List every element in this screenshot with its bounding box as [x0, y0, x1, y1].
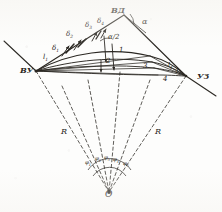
phi-2-sub: 2 — [99, 159, 101, 163]
delta-3-sub: 3 — [89, 25, 92, 30]
label-radius-right: R — [155, 128, 161, 136]
phi-4-sub: 4 — [117, 160, 119, 164]
phi-3-sub: 3 — [108, 158, 110, 162]
label-delta-1: δ1 — [52, 45, 59, 54]
label-delta-2: δ2 — [66, 31, 73, 40]
label-tangent-l1: l1 — [43, 54, 48, 63]
delta-4-sub: 4 — [101, 21, 104, 26]
label-curve-1: 1 — [119, 47, 123, 54]
label-apex-bd: ВД — [111, 6, 125, 14]
label-vertex-left: ВУ — [20, 66, 33, 74]
tangent-lines — [4, 15, 216, 96]
radius-lines — [36, 71, 186, 192]
label-radius-left: R — [61, 128, 67, 136]
label-delta-4: δ4 — [97, 18, 104, 27]
phi-1-sub: 1 — [89, 163, 91, 167]
label-phi-5: φ5 — [123, 161, 129, 169]
label-phi-3: φ3 — [104, 155, 110, 163]
label-phi-2: φ2 — [95, 156, 101, 164]
diagram-vector-layer — [0, 0, 222, 212]
delta-2-sub: 2 — [70, 34, 73, 39]
label-curve-3: 3 — [143, 63, 147, 70]
label-phi-1: φ1 — [85, 160, 91, 168]
label-angle-alpha-half: α/2 — [108, 34, 120, 41]
label-chord-l2: l2 — [168, 62, 173, 70]
label-chord-l3: l3 — [176, 68, 181, 76]
phi-5-sub: 5 — [127, 164, 129, 168]
tangent-l1-sub: 1 — [45, 57, 48, 62]
diagram-canvas: ВУ УЗ ВД О α α/2 δ1 δ2 δ3 δ4 l1 1 2 3 4 … — [0, 0, 222, 212]
label-delta-3: δ3 — [85, 22, 92, 31]
offset-arrows — [101, 36, 114, 72]
label-angle-alpha: α — [142, 18, 147, 26]
chord-l2-sub: 2 — [170, 65, 173, 70]
label-curve-4: 4 — [163, 76, 167, 83]
chord-l3-sub: 3 — [178, 71, 181, 76]
label-centre-o: О — [105, 190, 112, 199]
delta-1-sub: 1 — [56, 48, 59, 53]
label-phi-4: φ4 — [113, 157, 119, 165]
label-vertex-right: УЗ — [197, 72, 209, 80]
label-curve-2: 2 — [106, 58, 110, 65]
